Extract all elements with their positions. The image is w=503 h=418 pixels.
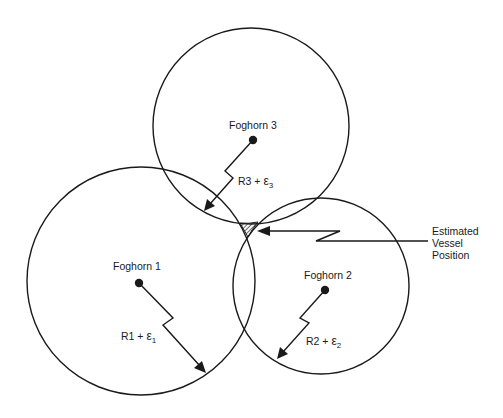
- callout-arrow: [266, 231, 428, 241]
- callout-label-line-3: Position: [432, 249, 470, 261]
- callout-arrowhead-icon: [257, 226, 270, 236]
- range-circle-2: [233, 198, 409, 374]
- foghorn-1-label: Foghorn 1: [113, 260, 161, 272]
- radius-arrow-1: [139, 283, 200, 366]
- range-label-1: R1 + ε1: [121, 329, 157, 345]
- foghorn-3-label: Foghorn 3: [229, 119, 277, 131]
- range-label-2: R2 + ε2: [306, 334, 342, 350]
- trilateration-diagram: Foghorn 1 Foghorn 2 Foghorn 3 R1 + ε1 R2…: [0, 0, 503, 418]
- radius-arrow-3: [210, 140, 253, 204]
- arrowhead-1-icon: [194, 361, 206, 373]
- callout-label-line-2: Vessel: [432, 237, 463, 249]
- foghorn-2-label: Foghorn 2: [304, 269, 352, 281]
- range-label-3: R3 + ε3: [238, 174, 274, 190]
- callout-label-line-1: Estimated: [432, 225, 479, 237]
